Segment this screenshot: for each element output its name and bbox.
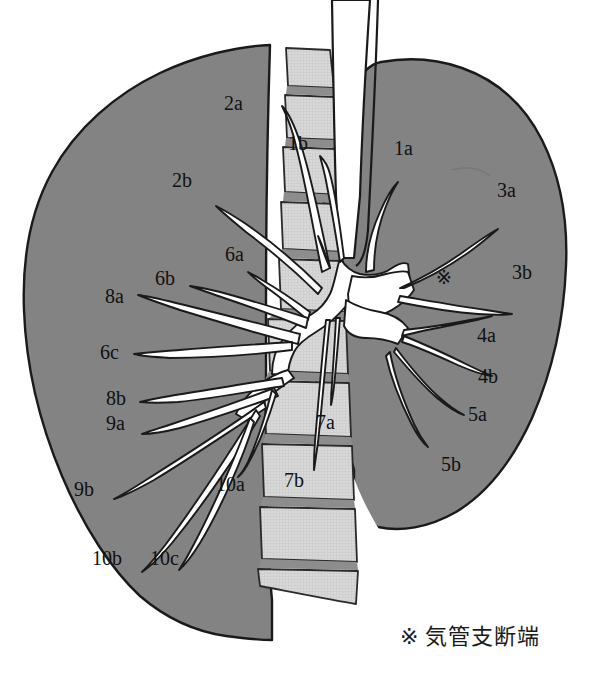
- segment-label-4a: 4a: [477, 325, 496, 345]
- segment-label-3a: 3a: [497, 180, 516, 200]
- segment-label-5b: 5b: [441, 454, 461, 474]
- anatomy-illustration: [0, 0, 592, 680]
- segment-label-7b: 7b: [284, 470, 304, 490]
- segment-label-8a: 8a: [105, 286, 124, 306]
- segment-label-1b: 1b: [288, 133, 308, 153]
- chest-anatomy-diagram: ※ 2a 1b 1a 2b 3a 6a 3b 6b 8a 4a 6c 4b 8b…: [0, 0, 592, 680]
- segment-label-3b: 3b: [512, 262, 532, 282]
- segment-label-6a: 6a: [225, 244, 244, 264]
- vertebra-1: [286, 48, 334, 88]
- legend-text: 気管支断端: [425, 624, 540, 649]
- segment-label-2a: 2a: [224, 93, 243, 113]
- segment-label-8b: 8b: [106, 388, 126, 408]
- vertebra-9: [260, 507, 357, 562]
- segment-label-4b: 4b: [478, 366, 498, 386]
- segment-label-6b: 6b: [155, 268, 175, 288]
- segment-label-10b: 10b: [92, 548, 122, 568]
- segment-label-10c: 10c: [150, 548, 179, 568]
- segment-label-7a: 7a: [316, 412, 335, 432]
- segment-label-2b: 2b: [172, 170, 192, 190]
- segment-label-9b: 9b: [74, 479, 94, 499]
- segment-label-6c: 6c: [100, 342, 119, 362]
- lung-left-shape: [24, 45, 272, 640]
- segment-label-9a: 9a: [106, 413, 125, 433]
- vertebra-8: [262, 444, 354, 500]
- legend-reference-mark-icon: ※: [400, 624, 419, 649]
- legend-caption: ※気管支断端: [400, 618, 540, 650]
- reference-mark-in-figure: ※: [436, 266, 452, 288]
- segment-label-5a: 5a: [468, 404, 487, 424]
- segment-label-1a: 1a: [394, 138, 413, 158]
- segment-label-10a: 10a: [216, 474, 245, 494]
